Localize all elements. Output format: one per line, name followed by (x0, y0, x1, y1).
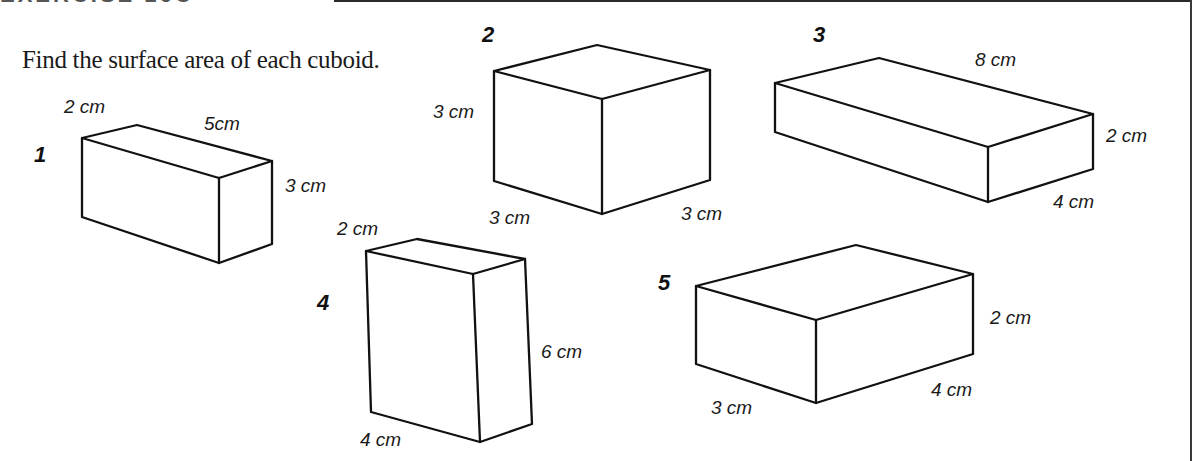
dimension-label: 3 cm (489, 208, 530, 227)
cuboid-top-front-edges (696, 274, 973, 320)
cuboid-number: 4 (317, 292, 329, 314)
cuboid-front-vertical-edge (473, 274, 480, 442)
cuboid-number: 1 (34, 144, 46, 166)
dimension-label: 2 cm (990, 308, 1031, 327)
cuboid-number: 3 (813, 24, 825, 46)
worksheet-page: EXERCISE 16C Find the surface area of ea… (0, 0, 1196, 461)
dimension-label: 3 cm (285, 176, 326, 195)
cuboid-top-front-edges (82, 138, 272, 178)
dimension-label: 3 cm (433, 102, 474, 121)
dimension-label: 2 cm (1106, 126, 1147, 145)
cuboid-1 (82, 125, 272, 263)
dimension-label: 4 cm (1053, 192, 1094, 211)
dimension-label: 2 cm (337, 219, 378, 238)
dimension-label: 2 cm (64, 97, 105, 116)
cuboid-3 (775, 58, 1093, 202)
cuboid-top-front-edges (494, 70, 710, 99)
cuboid-2 (494, 45, 710, 214)
cuboid-4 (366, 239, 532, 442)
dimension-label: 4 cm (931, 380, 972, 399)
dimension-label: 4 cm (360, 430, 401, 449)
dimension-label: 3 cm (681, 204, 722, 223)
cuboid-number: 2 (482, 24, 494, 46)
dimension-label: 5cm (204, 114, 240, 133)
cuboid-figures (0, 0, 1196, 461)
dimension-label: 3 cm (711, 398, 752, 417)
cuboid-number: 5 (658, 272, 670, 294)
dimension-label: 8 cm (975, 50, 1016, 69)
dimension-label: 6 cm (541, 342, 582, 361)
cuboid-top-front-edges (775, 83, 1093, 147)
